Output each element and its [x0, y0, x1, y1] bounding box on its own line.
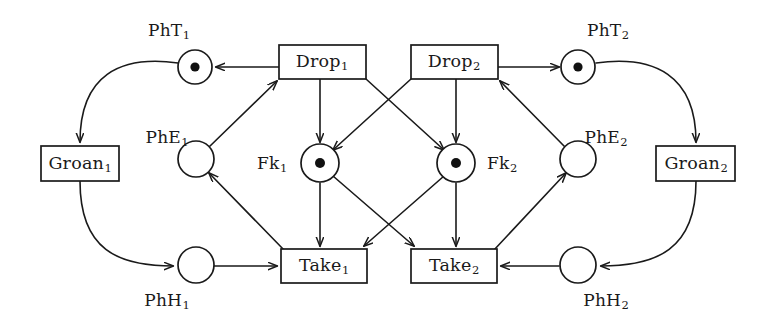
label-phe1: PhE1 — [146, 129, 189, 146]
label-sub: 2 — [510, 161, 518, 175]
label-phh2: PhH2 — [583, 292, 628, 309]
arc-take2-to-phe2 — [494, 173, 566, 250]
label-sub: 1 — [342, 263, 350, 277]
label-sub: 1 — [280, 161, 288, 175]
place-circle[interactable] — [178, 247, 214, 283]
label-base: Fk — [487, 153, 510, 173]
label-base: PhH — [144, 290, 182, 310]
arc-fk2-to-take1 — [364, 176, 444, 246]
label-base: Groan — [664, 153, 720, 173]
label-base: PhT — [148, 20, 182, 40]
label-base: Groan — [48, 153, 104, 173]
place-fk2[interactable] — [437, 144, 475, 182]
token-dot — [451, 158, 461, 168]
label-sub: 2 — [622, 28, 630, 42]
token-dot — [190, 62, 199, 71]
label-base: Take — [299, 255, 342, 275]
label-sub: 2 — [472, 263, 480, 277]
label-take2: Take2 — [429, 257, 479, 275]
place-fk1[interactable] — [301, 144, 339, 182]
label-sub: 2 — [622, 298, 630, 312]
petri-net-diagram: PhT1 PhT2 PhE1 PhE2 PhH1 PhH2 Fk1 Fk2 Dr… — [0, 0, 778, 329]
arc-groan1-to-phh1 — [80, 181, 173, 266]
arc-take1-to-phe1 — [209, 173, 284, 250]
label-base: Take — [429, 255, 472, 275]
label-sub: 1 — [183, 28, 191, 42]
label-base: PhE — [146, 127, 181, 147]
token-dot — [573, 62, 582, 71]
label-sub: 2 — [473, 59, 481, 73]
petri-net-canvas — [0, 0, 778, 329]
label-base: PhE — [585, 127, 620, 147]
label-fk1: Fk1 — [257, 155, 287, 172]
place-phh1[interactable] — [178, 247, 214, 283]
arc-fk1-to-take2 — [333, 176, 414, 246]
label-sub: 1 — [183, 298, 191, 312]
label-pht2: PhT2 — [587, 22, 629, 39]
label-sub: 1 — [341, 59, 349, 73]
label-pht1: PhT1 — [148, 22, 190, 39]
label-fk2: Fk2 — [487, 155, 517, 172]
label-sub: 2 — [620, 135, 628, 149]
label-sub: 1 — [104, 161, 112, 175]
arc-phe1-to-drop1 — [209, 81, 277, 147]
label-base: PhT — [587, 20, 621, 40]
label-drop2: Drop2 — [428, 53, 480, 71]
label-base: PhH — [583, 290, 621, 310]
place-pht2[interactable] — [561, 50, 595, 84]
place-circle[interactable] — [560, 247, 596, 283]
token-dot — [315, 158, 325, 168]
label-phh1: PhH1 — [144, 292, 189, 309]
place-pht1[interactable] — [178, 50, 212, 84]
label-drop1: Drop1 — [296, 53, 348, 71]
label-groan2: Groan2 — [664, 155, 727, 173]
arc-drop2-to-fk1 — [333, 79, 411, 150]
label-base: Drop — [428, 51, 473, 71]
place-phh2[interactable] — [560, 247, 596, 283]
arc-drop1-to-fk2 — [366, 79, 444, 150]
label-take1: Take1 — [299, 257, 349, 275]
arc-groan2-to-phh2 — [601, 181, 696, 266]
label-phe2: PhE2 — [585, 129, 628, 146]
label-sub: 1 — [181, 135, 189, 149]
label-base: Drop — [296, 51, 341, 71]
label-base: Fk — [257, 153, 280, 173]
label-sub: 2 — [720, 161, 728, 175]
label-groan1: Groan1 — [48, 155, 111, 173]
arc-phe2-to-drop2 — [500, 81, 565, 147]
